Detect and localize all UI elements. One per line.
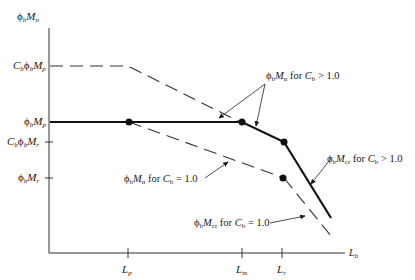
point-lm	[239, 119, 246, 126]
phimn-cb-gt-1-line	[50, 122, 331, 218]
point-lr-cb-eq-1	[280, 175, 287, 182]
point-lp	[126, 119, 133, 126]
point-lr-cb-gt-1	[281, 139, 288, 146]
x-label-lm: Lm	[236, 264, 247, 277]
y-label-cb-phimr: CbϕbMr	[7, 136, 39, 149]
annotation-phimn-cb-gt-1: ϕbMn for Cb > 1.0	[266, 71, 340, 83]
annotation-phimcr-cb-gt-1: ϕbMcr for Cb > 1.0	[327, 154, 403, 166]
x-label-lp: Lp	[122, 264, 132, 277]
y-axis-title: ϕbMn	[17, 11, 39, 24]
arrow-mcr-eq	[270, 216, 305, 223]
x-label-lr: Lr	[277, 264, 286, 277]
y-label-cb-phimp: CbϕbMp	[13, 60, 46, 73]
x-axis-title: Lb	[349, 248, 358, 260]
annotation-phimcr-cb-eq-1: ϕbMcr for Cb = 1.0	[194, 218, 270, 230]
chart-canvas	[0, 0, 415, 280]
y-label-phimr: ϕbMr	[18, 172, 39, 185]
annotation-phimn-cb-eq-1: ϕbMn for Cb = 1.0	[124, 174, 198, 186]
cb-phimp-dashed-line	[50, 66, 242, 123]
arrow-mn-gt-a	[219, 84, 265, 118]
arrow-mn-eq	[205, 162, 228, 178]
y-label-phimp: ϕbMp	[24, 116, 46, 129]
arrow-mn-gt-b	[256, 84, 265, 126]
